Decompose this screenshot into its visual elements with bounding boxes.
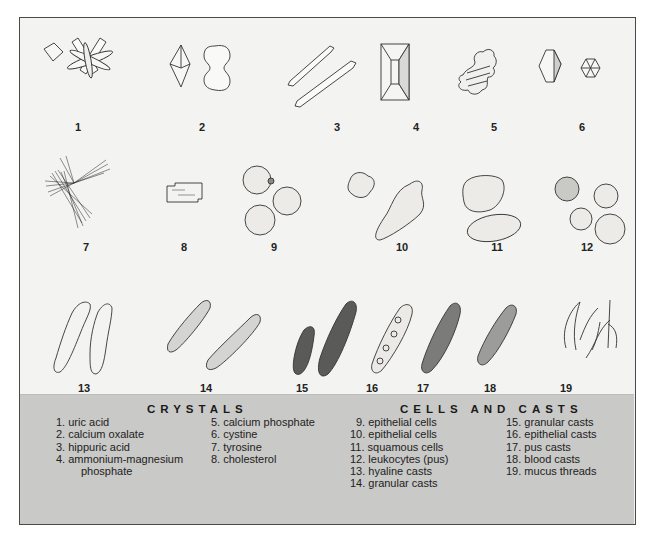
figure-number: 11 [491, 241, 503, 253]
legend-item: 17. pus casts [506, 441, 597, 453]
cropped-caption [0, 0, 650, 6]
legend-item: 9. epithelial cells [350, 416, 448, 428]
cholesterol-drawing [167, 183, 202, 202]
legend-item: 19. mucus threads [506, 465, 597, 477]
figure-number: 18 [484, 382, 496, 394]
figure-number: 13 [78, 382, 90, 394]
figure-frame: 1 2 3 4 5 6 7 8 9 10 11 12 13 14 15 16 1… [19, 17, 636, 525]
legend-item: 4. ammonium-magnesium [56, 453, 183, 465]
figure-number: 7 [83, 241, 89, 253]
sediment-drawings [20, 18, 634, 394]
figure-number: 3 [334, 121, 340, 133]
figure-number: 6 [579, 121, 585, 133]
legend-item: 3. hippuric acid [56, 441, 183, 453]
legend-item: 15. granular casts [506, 416, 597, 428]
figure-number: 4 [413, 121, 419, 133]
legend-panel: CRYSTALS 1. uric acid 2. calcium oxalate… [20, 394, 634, 524]
legend-item: 1. uric acid [56, 416, 183, 428]
figure-number: 8 [181, 241, 187, 253]
epithelial-cells-9-drawing [243, 166, 301, 235]
hippuric-acid-drawing [288, 46, 356, 107]
figure-number: 19 [560, 382, 572, 394]
legend-item: 8. cholesterol [211, 453, 315, 465]
blood-casts-drawing [478, 305, 517, 365]
crystals-list-col2: 5. calcium phosphate 6. cystine 7. tyros… [211, 416, 315, 465]
legend-item: 14. granular casts [350, 477, 448, 489]
calcium-oxalate-drawing [170, 45, 230, 91]
cells-and-casts-heading: CELLS AND CASTS [400, 403, 583, 415]
figure-number: 16 [366, 382, 378, 394]
figure-number: 5 [491, 121, 497, 133]
cystine-drawing [539, 50, 600, 82]
figure-number: 15 [296, 382, 308, 394]
figure-number: 9 [271, 241, 277, 253]
legend-item-continuation: phosphate [56, 465, 183, 477]
pus-casts-drawing [422, 303, 461, 373]
illustration-panel: 1 2 3 4 5 6 7 8 9 10 11 12 13 14 15 16 1… [20, 18, 634, 394]
calcium-phosphate-drawing [459, 49, 496, 94]
epithelial-casts-drawing [372, 305, 413, 373]
granular-casts-14-drawing [167, 301, 260, 370]
legend-item: 10. epithelial cells [350, 428, 448, 440]
legend-item: 11. squamous cells [350, 441, 448, 453]
legend-item: 13. hyaline casts [350, 465, 448, 477]
figure-number: 12 [581, 241, 593, 253]
figure-number: 1 [75, 121, 81, 133]
squamous-cells-drawing [463, 176, 523, 246]
crystals-list-col1: 1. uric acid 2. calcium oxalate 3. hippu… [56, 416, 183, 477]
crystals-heading: CRYSTALS [147, 403, 248, 415]
legend-item: 12. leukocytes (pus) [350, 453, 448, 465]
leukocytes-drawing [555, 177, 625, 244]
uric-acid-drawing [44, 38, 114, 79]
figure-number: 10 [396, 241, 408, 253]
epithelial-cells-10-drawing [348, 173, 424, 240]
figure-number: 17 [417, 382, 429, 394]
ammonium-magnesium-phosphate-drawing [381, 44, 409, 100]
legend-item: 6. cystine [211, 428, 315, 440]
cells-casts-list-col2: 15. granular casts 16. epithelial casts … [506, 416, 597, 477]
mucus-threads-drawing [564, 300, 616, 358]
legend-item: 2. calcium oxalate [56, 428, 183, 440]
legend-item: 7. tyrosine [211, 441, 315, 453]
tyrosine-drawing [45, 156, 110, 228]
figure-number: 2 [199, 121, 205, 133]
cells-casts-list-col1: 9. epithelial cells 10. epithelial cells… [350, 416, 448, 490]
figure-number: 14 [200, 382, 212, 394]
granular-casts-15-drawing [293, 301, 356, 376]
legend-item: 18. blood casts [506, 453, 597, 465]
hyaline-casts-drawing [54, 302, 112, 374]
legend-item: 16. epithelial casts [506, 428, 597, 440]
legend-item: 5. calcium phosphate [211, 416, 315, 428]
